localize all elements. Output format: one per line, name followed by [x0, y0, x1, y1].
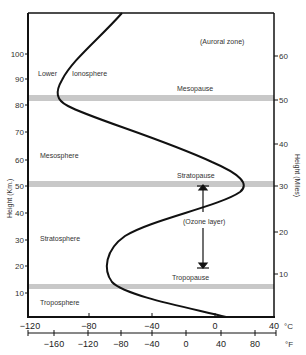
km-tick: 30 [15, 236, 24, 245]
fahrenheit-tick: 40 [216, 339, 226, 349]
plot-frame [27, 13, 275, 317]
y-axis-label-right: Height (Miles) [293, 154, 301, 197]
celsius-tick-labels: −120 −80 −40 0 40 [20, 321, 279, 331]
km-tick: 100 [11, 50, 25, 59]
fahrenheit-tick: 80 [250, 339, 260, 349]
fahrenheit-tick: −40 [144, 339, 159, 349]
miles-tick: 30 [279, 182, 288, 191]
miles-tick: 20 [279, 228, 288, 237]
km-tick: 10 [15, 289, 24, 298]
miles-tick: 40 [279, 140, 288, 149]
stratopause-band [28, 181, 274, 187]
km-tick: 90 [15, 75, 24, 84]
km-tick: 40 [15, 209, 24, 218]
temperature-curve [58, 13, 244, 317]
fahrenheit-tick: −80 [113, 339, 128, 349]
miles-tick: 50 [279, 96, 288, 105]
fahrenheit-tick: −160 [44, 339, 64, 349]
ozone-layer-label: (Ozone layer) [183, 218, 225, 226]
miles-tick: 10 [279, 270, 288, 279]
celsius-tick: 40 [269, 321, 279, 331]
celsius-tick: 0 [212, 321, 217, 331]
miles-tick: 60 [279, 52, 288, 61]
fahrenheit-tick: 0 [183, 339, 188, 349]
celsius-tick: −40 [144, 321, 159, 331]
miles-tick-labels: 60 50 40 30 20 10 [279, 52, 288, 279]
fahrenheit-tick: −120 [78, 339, 98, 349]
km-tick: 60 [15, 156, 24, 165]
celsius-unit: °C [284, 322, 293, 331]
mesosphere-label: Mesosphere [40, 152, 79, 160]
stratosphere-label: Stratosphere [40, 235, 80, 243]
celsius-tick: −80 [81, 321, 96, 331]
km-tick-labels: 100 90 80 70 60 50 40 30 20 10 [11, 50, 25, 298]
fahrenheit-tick-labels: −160 −120 −80 −40 0 40 80 [44, 339, 260, 349]
tropopause-band [28, 284, 274, 289]
fahrenheit-axis [28, 330, 276, 336]
km-tick: 70 [15, 128, 24, 137]
tropopause-label: Tropopause [172, 274, 209, 282]
troposphere-label: Troposphere [40, 299, 80, 307]
ionosphere-label: Ionosphere [72, 70, 107, 78]
fahrenheit-unit: °F [285, 340, 293, 349]
atmosphere-temperature-diagram: (Auroral zone) Lower Ionosphere Mesopaus… [0, 0, 306, 355]
stratopause-label: Stratopause [177, 172, 215, 180]
auroral-zone-label: (Auroral zone) [200, 38, 244, 46]
km-tick: 50 [15, 182, 24, 191]
km-tick: 20 [15, 262, 24, 271]
ozone-layer-arrow [197, 185, 209, 268]
mesopause-band [28, 95, 274, 101]
celsius-tick: −120 [20, 321, 40, 331]
lower-label: Lower [38, 70, 58, 77]
mesopause-label: Mesopause [177, 85, 213, 93]
y-axis-label-left: Height (Km.) [6, 179, 14, 218]
km-tick: 80 [15, 101, 24, 110]
